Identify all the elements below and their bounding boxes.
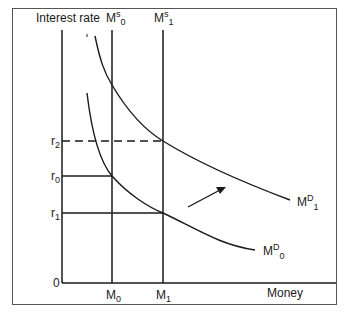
m1-quantity-label: M1	[156, 288, 171, 304]
origin-label: 0	[53, 276, 60, 290]
md1-label: MD1	[297, 193, 319, 212]
y-axis-label: Interest rate	[36, 11, 100, 25]
money-demand-1-curve	[95, 36, 290, 200]
ms0-label: Ms0	[106, 9, 126, 27]
ms1-label: Ms1	[154, 9, 174, 27]
md0-label: MD0	[263, 242, 285, 261]
m0-quantity-label: M0	[106, 288, 121, 304]
money-market-diagram: Interest rate Ms0 Ms1 r2 r0 r1 0 M0 M1 M…	[0, 0, 347, 315]
x-axis-label: Money	[267, 286, 303, 300]
shift-arrow-icon	[216, 187, 226, 194]
shift-arrow-line	[188, 190, 220, 207]
r2-label: r2	[51, 134, 60, 150]
r1-label: r1	[51, 206, 60, 222]
diagram-frame	[13, 9, 337, 305]
r0-label: r0	[51, 169, 60, 185]
